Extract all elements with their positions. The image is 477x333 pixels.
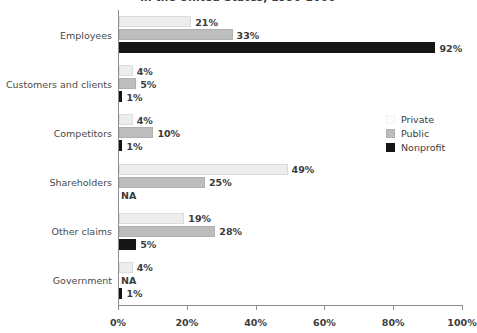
- bar-nonprofit: [119, 239, 136, 250]
- legend-item[interactable]: Public: [386, 126, 472, 140]
- legend-swatch-icon: [386, 115, 395, 124]
- legend-item[interactable]: Nonprofit: [386, 140, 472, 154]
- bar-nonprofit: [119, 91, 122, 102]
- bar-private: [119, 65, 133, 76]
- x-axis-tick-label: 100%: [447, 317, 476, 328]
- chart-title: in the United States, 1990-2000: [0, 0, 476, 3]
- bar-value-label: NA: [121, 275, 136, 286]
- chart-legend: PrivatePublicNonprofit: [386, 112, 472, 154]
- bar-nonprofit: [119, 288, 122, 299]
- bar-public: [119, 78, 136, 89]
- legend-label: Private: [401, 114, 434, 125]
- y-axis-line: [118, 10, 119, 305]
- bar-nonprofit: [119, 140, 122, 151]
- bar-value-label: NA: [121, 190, 136, 201]
- bar-public: [119, 177, 205, 188]
- y-axis-category-labels: EmployeesCustomers and clientsCompetitor…: [0, 10, 112, 305]
- x-axis-tick: [256, 305, 257, 310]
- x-axis-tick: [324, 305, 325, 310]
- bar-public: [119, 127, 153, 138]
- legend-swatch-icon: [386, 129, 395, 138]
- bar-value-label: 1%: [126, 91, 142, 102]
- bar-value-label: 1%: [126, 288, 142, 299]
- category-label: Customers and clients: [6, 78, 112, 89]
- x-axis-tick-label: 0%: [110, 317, 126, 328]
- bar-private: [119, 16, 191, 27]
- x-axis-tick-label: 80%: [382, 317, 405, 328]
- category-label: Employees: [60, 29, 112, 40]
- bar-value-label: 5%: [140, 78, 156, 89]
- bar-value-label: 33%: [237, 29, 260, 40]
- bar-value-label: 19%: [188, 213, 211, 224]
- x-axis-tick-label: 20%: [175, 317, 198, 328]
- bar-value-label: 92%: [439, 42, 462, 53]
- category-label: Competitors: [54, 127, 112, 138]
- x-axis-tick: [187, 305, 188, 310]
- bar-nonprofit: [119, 42, 435, 53]
- plot-area: 0%20%40%60%80%100%21%33%92%4%5%1%4%10%1%…: [118, 10, 462, 305]
- bar-private: [119, 262, 133, 273]
- bar-private: [119, 114, 133, 125]
- bar-value-label: 49%: [292, 164, 315, 175]
- x-axis-tick-label: 40%: [244, 317, 267, 328]
- x-axis-line: [118, 305, 462, 306]
- bar-value-label: 4%: [137, 65, 153, 76]
- legend-label: Public: [401, 128, 429, 139]
- bar-value-label: 25%: [209, 177, 232, 188]
- legend-swatch-icon: [386, 143, 395, 152]
- bar-value-label: 21%: [195, 16, 218, 27]
- bar-value-label: 10%: [157, 127, 180, 138]
- bar-public: [119, 29, 233, 40]
- x-axis-tick: [118, 305, 119, 310]
- category-label: Shareholders: [49, 177, 112, 188]
- bar-value-label: 1%: [126, 140, 142, 151]
- x-axis-tick: [393, 305, 394, 310]
- legend-item[interactable]: Private: [386, 112, 472, 126]
- bar-public: [119, 226, 215, 237]
- bar-private: [119, 213, 184, 224]
- bar-value-label: 28%: [219, 226, 242, 237]
- x-axis-tick-label: 60%: [313, 317, 336, 328]
- bar-private: [119, 164, 288, 175]
- category-label: Other claims: [51, 226, 112, 237]
- category-label: Government: [53, 275, 112, 286]
- bar-value-label: 4%: [137, 114, 153, 125]
- bar-value-label: 4%: [137, 262, 153, 273]
- x-axis-tick: [462, 305, 463, 310]
- legend-label: Nonprofit: [401, 142, 445, 153]
- bar-value-label: 5%: [140, 239, 156, 250]
